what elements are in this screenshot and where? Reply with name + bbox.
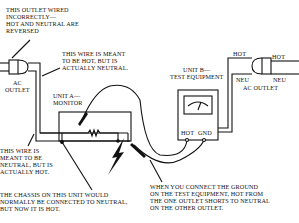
- probe-cable-gnd: [134, 140, 204, 163]
- neutral-wire-left: [28, 71, 130, 141]
- unit-b-label: UNIT B— TEST EQUIPMENT: [170, 66, 223, 80]
- left-outlet-label: AC OUTLET: [5, 79, 30, 93]
- outlet-note: THIS OUTLET WIRED INCORRECTLY— HOT AND N…: [6, 6, 79, 34]
- chassis-note: THE CHASSIS ON THIS UNIT WOULD NORMALLY …: [0, 191, 128, 212]
- right-outlet-label: AC OUTLET: [243, 84, 278, 91]
- hot-wire-note: THIS WIRE IS MEANT TO BE HOT, BUT IS ACT…: [62, 50, 128, 71]
- resistor-icon: [80, 130, 118, 141]
- neutral-wire-note: THIS WIRE IS MEANT TO BE NEUTRAL, BUT IS…: [0, 147, 53, 175]
- unit-a-chassis: [59, 112, 131, 141]
- terminal-hot-label: HOT: [181, 129, 194, 136]
- right-ac-outlet-icon: [252, 58, 299, 74]
- probe-tip-icon: [130, 143, 146, 158]
- right-outlet-neu-right: NEU: [273, 76, 286, 83]
- right-outlet-neu-left: NEU: [236, 76, 249, 83]
- spark-icon: [108, 138, 124, 175]
- right-outlet-hot-right: HOT: [272, 53, 285, 60]
- ground-note: WHEN YOU CONNECT THE GROUND ON THE TEST …: [150, 183, 270, 211]
- probe-tip-icon: [78, 112, 88, 126]
- right-outlet-hot-left: HOT: [233, 50, 246, 57]
- terminal-gnd-label: GND: [198, 129, 212, 136]
- left-ac-outlet-icon: [0, 60, 28, 74]
- unit-a-label: UNIT A— MONITOR: [53, 92, 82, 106]
- meter-face-icon: [184, 96, 212, 114]
